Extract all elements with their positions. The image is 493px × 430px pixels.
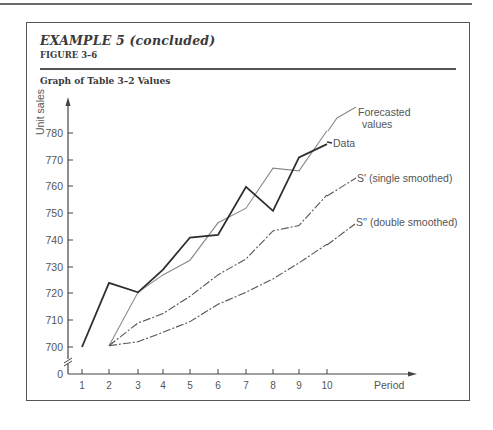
svg-text:9: 9: [296, 380, 302, 391]
label-double-smoothed: S'' (double smoothed): [356, 216, 457, 228]
label-forecasted: Forecasted: [358, 106, 411, 118]
series-line-forecasted-values: [109, 131, 327, 346]
svg-text:730: 730: [45, 261, 63, 273]
y-tick-labels: 780 770 760 750 740 730 720 710 700 0: [45, 127, 63, 380]
svg-text:770: 770: [45, 154, 63, 166]
x-ticks: [82, 369, 327, 374]
x-axis-label: Period: [374, 379, 405, 391]
svg-text:740: 740: [45, 234, 63, 246]
svg-text:7: 7: [243, 380, 249, 391]
y-ticks: [68, 133, 73, 347]
label-forecasted-2: values: [362, 118, 392, 130]
line-chart: 780 770 760 750 740 730 720 710 700 0 Un…: [0, 0, 493, 430]
svg-text:780: 780: [45, 127, 63, 139]
series-line-s-single-smoothed: [109, 195, 327, 346]
series-line-s-double-smoothed: [109, 244, 327, 346]
y-axis: [66, 97, 71, 374]
x-axis: [68, 372, 417, 377]
series-line-data: [82, 144, 327, 347]
label-leaders: [327, 107, 356, 245]
series-layer: [82, 131, 327, 347]
svg-text:10: 10: [321, 380, 333, 391]
svg-text:750: 750: [45, 207, 63, 219]
svg-text:4: 4: [160, 380, 166, 391]
svg-text:8: 8: [270, 380, 276, 391]
y-axis-label: Unit sales: [34, 89, 46, 135]
svg-text:760: 760: [45, 180, 63, 192]
label-single-smoothed: S' (single smoothed): [357, 172, 452, 184]
svg-text:2: 2: [106, 380, 112, 391]
x-tick-labels: 1 2 3 4 5 6 7 8 9 10: [79, 380, 333, 391]
svg-text:700: 700: [45, 341, 63, 353]
svg-text:1: 1: [79, 380, 85, 391]
svg-text:5: 5: [187, 380, 193, 391]
svg-text:6: 6: [215, 380, 221, 391]
svg-text:3: 3: [135, 380, 141, 391]
svg-text:720: 720: [45, 287, 63, 299]
series-labels: Forecasted values Data S' (single smooth…: [333, 106, 457, 228]
label-data: Data: [333, 137, 355, 149]
svg-text:710: 710: [45, 314, 63, 326]
svg-text:0: 0: [57, 368, 63, 380]
